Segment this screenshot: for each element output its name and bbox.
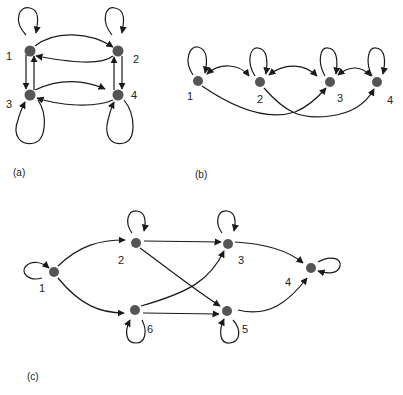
node-c-6 xyxy=(130,305,140,315)
edge-c-3-3 xyxy=(218,211,235,233)
edge-b-3-3 xyxy=(320,48,337,76)
diagram-b xyxy=(188,47,384,117)
edge-c-2-3 xyxy=(144,241,221,242)
edge-b-1-3 xyxy=(202,86,326,115)
edge-a-3-3 xyxy=(16,100,44,143)
edge-b-2-3 xyxy=(269,66,317,76)
edge-a-4-4 xyxy=(107,100,133,143)
edge-b-3-4 xyxy=(338,68,371,76)
node-label-c-1: 1 xyxy=(39,283,45,294)
diagram-a xyxy=(16,8,133,144)
node-label-a-3: 3 xyxy=(6,99,12,110)
graph-figure xyxy=(0,0,403,395)
node-a-3 xyxy=(25,90,36,101)
edge-a-2-2 xyxy=(105,8,123,35)
edge-b-1-1 xyxy=(188,47,206,75)
node-c-5 xyxy=(222,306,232,316)
node-label-b-1: 1 xyxy=(187,91,193,102)
edge-c-2-5 xyxy=(140,248,220,306)
diagram-c xyxy=(24,211,340,343)
node-label-b-4: 4 xyxy=(387,95,393,106)
edge-b-1-2 xyxy=(207,66,249,76)
edge-b-4-4 xyxy=(368,48,384,76)
caption-a: (a) xyxy=(13,168,25,178)
node-label-c-5: 5 xyxy=(242,324,248,335)
node-b-1 xyxy=(193,76,203,86)
edge-b-2-2 xyxy=(250,48,267,76)
edge-c-3-4 xyxy=(235,242,303,263)
node-c-3 xyxy=(223,239,233,249)
edge-b-2-4 xyxy=(264,88,374,117)
node-b-2 xyxy=(255,77,265,87)
edge-a-1-2 xyxy=(35,35,113,47)
node-b-4 xyxy=(372,77,382,87)
node-label-c-4: 4 xyxy=(285,277,291,288)
nodes-b xyxy=(193,76,382,87)
edge-c-1-1 xyxy=(24,262,49,279)
node-a-2 xyxy=(113,46,124,57)
node-c-1 xyxy=(49,267,59,277)
node-b-3 xyxy=(325,77,335,87)
node-c-4 xyxy=(306,263,316,273)
edge-c-5-4 xyxy=(238,278,307,312)
edge-c-4-4 xyxy=(318,258,340,273)
edge-a-4-3 xyxy=(37,98,113,105)
node-label-b-2: 2 xyxy=(257,94,263,105)
edge-c-2-2 xyxy=(128,211,145,233)
edge-c-5-5 xyxy=(221,319,239,343)
nodes-c xyxy=(49,238,316,316)
node-label-c-3: 3 xyxy=(238,255,244,266)
nodes-a xyxy=(25,46,124,101)
node-a-1 xyxy=(25,46,36,57)
node-label-a-1: 1 xyxy=(6,51,12,62)
node-c-2 xyxy=(131,238,141,248)
edge-c-6-5 xyxy=(143,313,219,314)
node-label-b-3: 3 xyxy=(337,93,343,104)
caption-b: (b) xyxy=(195,170,207,180)
edge-c-6-3 xyxy=(141,251,224,306)
edge-a-2-1 xyxy=(36,56,113,62)
caption-c: (c) xyxy=(27,372,39,382)
node-label-a-2: 2 xyxy=(133,54,139,65)
edge-a-3-4 xyxy=(35,82,105,90)
edge-c-1-6 xyxy=(58,278,124,313)
node-label-c-2: 2 xyxy=(118,255,124,266)
edge-a-1-1 xyxy=(18,8,37,35)
node-label-a-4: 4 xyxy=(131,90,137,101)
node-a-4 xyxy=(113,90,124,101)
edge-c-6-6 xyxy=(127,320,145,343)
edge-c-1-2 xyxy=(58,240,125,266)
node-label-c-6: 6 xyxy=(147,324,153,335)
